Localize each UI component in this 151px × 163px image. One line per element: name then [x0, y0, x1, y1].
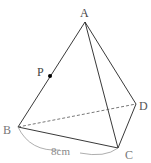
point-p — [48, 74, 52, 78]
edge-cd — [118, 104, 136, 148]
label-d: D — [139, 99, 148, 113]
hidden-edge-bd — [18, 104, 136, 127]
label-p: P — [37, 65, 44, 79]
label-b: B — [3, 123, 11, 137]
label-a: A — [80, 6, 89, 20]
edge-ad — [85, 22, 136, 104]
measure-label: 8cm — [51, 145, 70, 157]
pyramid-diagram: A P B C D 8cm — [0, 0, 151, 163]
edge-ac — [85, 22, 118, 148]
edge-ab — [18, 22, 85, 127]
label-c: C — [125, 148, 133, 162]
